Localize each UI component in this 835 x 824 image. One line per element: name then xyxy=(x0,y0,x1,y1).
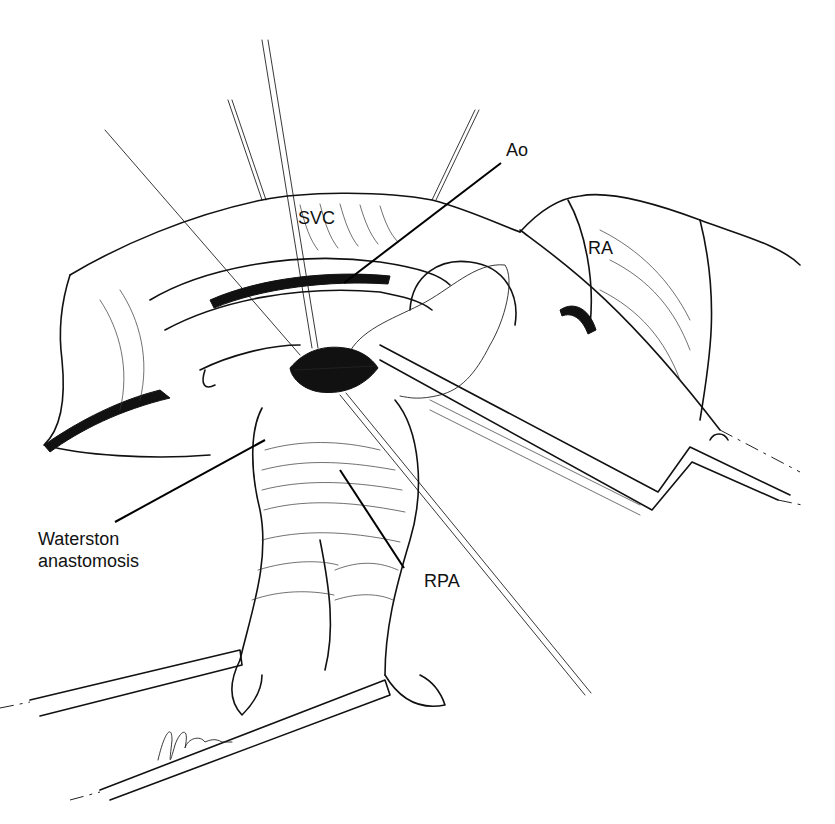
label-ra: RA xyxy=(588,237,613,259)
label-waterston-anastomosis: Waterston anastomosis xyxy=(38,528,178,572)
svc-hatching xyxy=(100,204,690,410)
aorta xyxy=(410,261,516,325)
label-svc: SVC xyxy=(298,207,335,229)
label-rpa: RPA xyxy=(424,570,460,592)
bottom-clamps xyxy=(0,650,390,800)
surgical-illustration: SVC Ao RA Waterston anastomosis RPA xyxy=(0,0,835,824)
hatching-strip xyxy=(430,400,640,515)
artist-signature xyxy=(158,732,232,760)
right-atrium xyxy=(520,195,800,420)
label-waterston-line1: Waterston xyxy=(38,528,178,550)
vascular-clamp xyxy=(380,230,802,510)
anastomosis-site xyxy=(290,347,378,392)
suture-loop xyxy=(348,265,509,398)
line-drawing xyxy=(0,0,835,824)
label-ao: Ao xyxy=(506,139,528,161)
svc-outline xyxy=(44,193,520,457)
label-waterston-line2: anastomosis xyxy=(38,550,178,572)
right-pulmonary-artery xyxy=(232,400,445,715)
